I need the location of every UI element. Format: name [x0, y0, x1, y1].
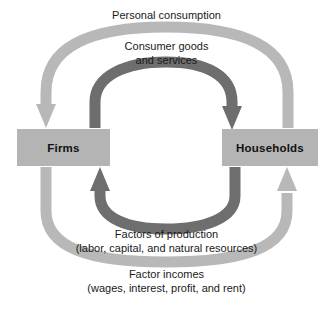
entity-box-households: Households — [222, 129, 318, 166]
flow-label-consumer-goods: Consumer goods and services — [0, 40, 333, 67]
entity-box-firms: Firms — [17, 129, 110, 166]
entity-box-households-label: Households — [236, 142, 304, 154]
flow-label-factors-of-production: Factors of production (labor, capital, a… — [0, 228, 333, 255]
circular-flow-diagram: Firms Households Personal consumption Co… — [0, 0, 333, 315]
entity-box-firms-label: Firms — [47, 142, 79, 154]
flow-label-factor-incomes: Factor incomes (wages, interest, profit,… — [0, 268, 333, 295]
flow-label-personal-consumption: Personal consumption — [0, 9, 333, 23]
flow-arrow-consumer-goods — [95, 62, 242, 130]
flow-arrow-factors-of-production — [90, 167, 235, 229]
